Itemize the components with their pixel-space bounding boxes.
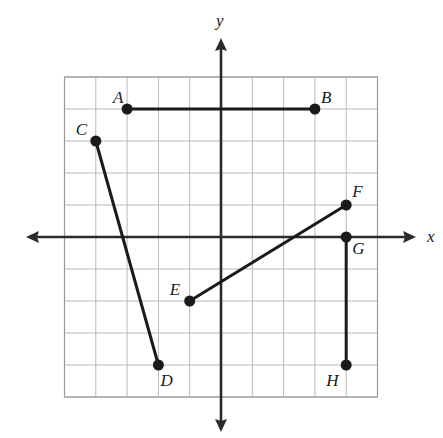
point-label-g: G	[352, 240, 364, 257]
coordinate-plane-canvas	[0, 0, 443, 438]
point-b	[309, 104, 320, 115]
point-label-c: C	[76, 121, 87, 138]
point-c	[90, 136, 101, 147]
y-axis-label: y	[216, 12, 224, 29]
point-label-b: B	[321, 89, 331, 106]
point-label-d: D	[160, 372, 172, 389]
coordinate-plane-figure: x y ABCDEFGH	[0, 0, 443, 438]
point-label-a: A	[113, 89, 123, 106]
point-label-h: H	[326, 372, 338, 389]
point-d	[153, 360, 164, 371]
point-f	[341, 200, 352, 211]
point-g	[341, 232, 352, 243]
point-e	[184, 296, 195, 307]
point-h	[341, 360, 352, 371]
point-label-e: E	[170, 281, 180, 298]
x-axis-label: x	[427, 228, 435, 245]
point-label-f: F	[352, 183, 362, 200]
segment-ef	[190, 205, 347, 301]
